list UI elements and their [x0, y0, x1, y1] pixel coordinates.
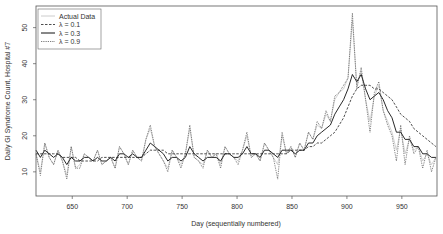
series-lambda-01: [36, 85, 436, 161]
line-chart: 650700750800850900950 1020304050 Day (se…: [0, 0, 443, 234]
y-tick-label: 30: [21, 96, 28, 104]
x-tick-label: 900: [341, 203, 353, 210]
series-lambda-03: [36, 75, 436, 165]
y-tick-label: 50: [21, 24, 28, 32]
y-tick-label: 40: [21, 60, 28, 68]
x-tick-label: 950: [396, 203, 408, 210]
y-axis-label: Daily GI Syndrome Count, Hospital #7: [4, 42, 12, 160]
legend: Actual Data λ = 0.1 λ = 0.3 λ = 0.9: [38, 9, 101, 49]
x-tick-label: 650: [66, 203, 78, 210]
x-tick-label: 850: [286, 203, 298, 210]
legend-label-lambda-03: λ = 0.3: [59, 30, 80, 37]
legend-label-lambda-01: λ = 0.1: [59, 21, 80, 28]
x-tick-label: 800: [231, 203, 243, 210]
y-tick-label: 10: [21, 168, 28, 176]
y-axis: 1020304050: [21, 24, 36, 176]
x-axis: 650700750800850900950: [66, 196, 407, 210]
x-axis-label: Day (sequentially numbered): [191, 220, 281, 228]
y-tick-label: 20: [21, 132, 28, 140]
x-tick-label: 700: [121, 203, 133, 210]
legend-label-lambda-09: λ = 0.9: [59, 38, 80, 45]
x-tick-label: 750: [176, 203, 188, 210]
legend-label-actual: Actual Data: [59, 13, 95, 20]
